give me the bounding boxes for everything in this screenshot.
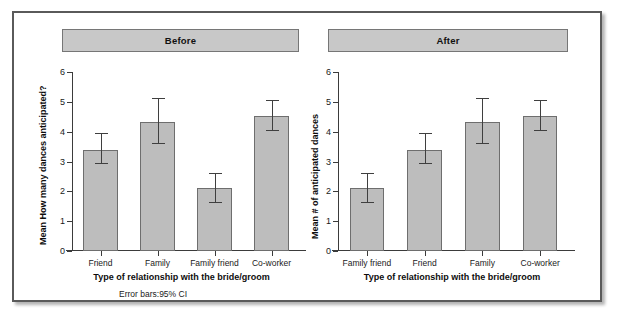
y-tick-label-after-4: 4 [326, 127, 331, 137]
x-axis-title-before: Type of relationship with the bride/groo… [54, 272, 309, 282]
error-bar-cap-bottom [534, 130, 547, 131]
y-tick-before-1 [67, 221, 72, 222]
panel-header-before: Before [62, 29, 299, 52]
y-tick-label-before-0: 0 [60, 246, 65, 256]
y-tick-label-after-6: 6 [326, 67, 331, 77]
error-bar-cap-top [266, 100, 279, 101]
bar-before-0 [83, 150, 117, 251]
plot-area-after: 0123456Family friendFriendFamilyCo-worke… [338, 72, 569, 251]
x-tick-before-2 [215, 251, 216, 256]
y-axis-title-before: Mean How many dances anticipated? [38, 85, 48, 245]
error-bar-cap-bottom [209, 202, 222, 203]
x-category-label-before-3: Co-worker [252, 258, 291, 268]
error-bar-after-1 [425, 133, 426, 164]
y-tick-label-after-2: 2 [326, 186, 331, 196]
error-bar-cap-bottom [419, 163, 432, 164]
error-bar-cap-bottom [152, 143, 165, 144]
y-tick-label-after-3: 3 [326, 157, 331, 167]
error-bar-cap-top [534, 100, 547, 101]
x-tick-before-3 [272, 251, 273, 256]
x-category-label-after-3: Co-worker [521, 258, 560, 268]
panel-header-after: After [328, 29, 568, 52]
x-category-label-after-1: Friend [413, 258, 437, 268]
error-bar-before-2 [215, 173, 216, 204]
panel-title-before: Before [165, 35, 196, 46]
error-bar-cap-top [95, 133, 108, 134]
y-tick-after-1 [333, 221, 338, 222]
y-tick-label-after-0: 0 [326, 246, 331, 256]
y-tick-after-0 [333, 251, 338, 252]
figure-root: Before 0123456FriendFamilyFamily friendC… [0, 0, 637, 323]
error-bar-before-0 [101, 133, 102, 164]
x-category-label-before-2: Family friend [190, 258, 239, 268]
x-axis-title-after: Type of relationship with the bride/groo… [322, 272, 582, 282]
figure-frame: Before 0123456FriendFamilyFamily friendC… [12, 11, 602, 302]
bar-before-3 [254, 116, 288, 251]
x-tick-before-0 [101, 251, 102, 256]
error-bar-after-3 [540, 100, 541, 130]
error-bar-cap-bottom [266, 130, 279, 131]
bar-after-3 [523, 116, 558, 251]
bar-after-1 [407, 150, 442, 251]
x-category-label-before-1: Family [145, 258, 170, 268]
x-category-label-after-2: Family [470, 258, 495, 268]
y-tick-before-6 [67, 72, 72, 73]
y-tick-label-before-4: 4 [60, 127, 65, 137]
x-tick-after-2 [482, 251, 483, 256]
x-tick-after-1 [425, 251, 426, 256]
error-bar-after-0 [367, 173, 368, 204]
error-bar-before-1 [158, 98, 159, 144]
error-bar-cap-top [152, 98, 165, 99]
y-tick-before-5 [67, 102, 72, 103]
x-category-label-after-0: Family friend [343, 258, 392, 268]
y-tick-label-before-6: 6 [60, 67, 65, 77]
error-bars-note: Error bars:95% CI [119, 289, 187, 299]
x-tick-after-0 [367, 251, 368, 256]
x-tick-after-3 [540, 251, 541, 256]
panel-before: Before 0123456FriendFamilyFamily friendC… [14, 13, 310, 304]
y-tick-label-before-3: 3 [60, 157, 65, 167]
y-tick-after-2 [333, 191, 338, 192]
y-tick-after-6 [333, 72, 338, 73]
error-bar-cap-top [419, 133, 432, 134]
y-tick-label-after-5: 5 [326, 97, 331, 107]
y-tick-before-4 [67, 132, 72, 133]
y-tick-label-before-2: 2 [60, 186, 65, 196]
y-axis-title-after: Mean # of anticipated dances [310, 114, 320, 239]
y-tick-label-after-1: 1 [326, 216, 331, 226]
plot-area-before: 0123456FriendFamilyFamily friendCo-worke… [72, 72, 300, 251]
error-bar-cap-top [361, 173, 374, 174]
x-category-label-before-0: Friend [88, 258, 112, 268]
panel-title-after: After [436, 35, 459, 46]
error-bar-before-3 [272, 100, 273, 130]
error-bar-cap-top [476, 98, 489, 99]
y-tick-before-2 [67, 191, 72, 192]
x-tick-before-1 [158, 251, 159, 256]
error-bar-cap-bottom [476, 143, 489, 144]
error-bar-cap-bottom [95, 163, 108, 164]
y-tick-after-5 [333, 102, 338, 103]
panel-after: After 0123456Family friendFriendFamilyCo… [310, 13, 604, 304]
y-tick-after-4 [333, 132, 338, 133]
y-axis-line-after [338, 72, 339, 251]
y-tick-before-0 [67, 251, 72, 252]
y-tick-label-before-1: 1 [60, 216, 65, 226]
error-bar-after-2 [482, 98, 483, 144]
y-tick-before-3 [67, 162, 72, 163]
y-tick-label-before-5: 5 [60, 97, 65, 107]
error-bar-cap-bottom [361, 202, 374, 203]
y-tick-after-3 [333, 162, 338, 163]
error-bar-cap-top [209, 173, 222, 174]
y-axis-line-before [72, 72, 73, 251]
